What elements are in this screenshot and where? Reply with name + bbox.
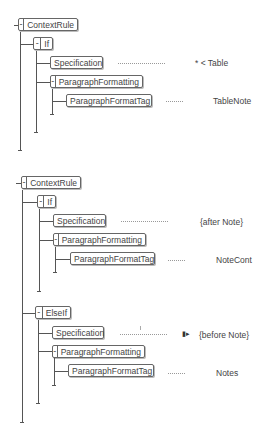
leader-dots — [120, 334, 167, 335]
connector — [52, 101, 66, 102]
collapse-toggle[interactable]: - — [34, 38, 41, 49]
node-label: If — [41, 39, 52, 49]
connector — [38, 333, 52, 334]
if-node[interactable]: - If — [37, 195, 56, 208]
connector — [54, 371, 68, 372]
connector-end — [53, 272, 57, 273]
specification-value[interactable]: {before Note} — [199, 330, 249, 340]
paragraph-format-tag-node[interactable]: ParagraphFormatTag — [70, 252, 155, 265]
specification-value[interactable]: * < Table — [195, 58, 228, 68]
context-rule-node[interactable]: - ContextRule — [21, 176, 81, 189]
node-label: ParagraphFormatTag — [69, 366, 155, 376]
node-label: If — [44, 197, 55, 207]
paragraph-formatting-node[interactable]: - ParagraphFormatting — [52, 345, 145, 358]
node-label: ContextRule — [24, 20, 77, 30]
leader-dots — [121, 221, 168, 222]
node-label: Specification — [54, 216, 108, 226]
connector — [36, 82, 50, 83]
node-label: ParagraphFormatTag — [67, 96, 153, 106]
connector — [20, 32, 21, 150]
connector — [55, 259, 70, 260]
context-rule-node[interactable]: - ContextRule — [18, 18, 78, 31]
node-label: ElseIf — [43, 308, 70, 318]
connector-end — [37, 291, 41, 292]
connector — [39, 240, 53, 241]
specification-value[interactable]: {after Note} — [200, 217, 243, 227]
paragraph-format-tag-node[interactable]: ParagraphFormatTag — [66, 94, 152, 107]
specification-node[interactable]: Specification — [50, 56, 103, 69]
connector — [20, 44, 33, 45]
if-node[interactable]: - If — [33, 37, 53, 50]
node-label: Specification — [53, 328, 107, 338]
connector — [22, 202, 37, 203]
tag-value[interactable]: TableNote — [213, 96, 251, 106]
pointer-tick — [140, 326, 141, 330]
connector — [22, 190, 23, 422]
paragraph-formatting-node[interactable]: - ParagraphFormatting — [50, 75, 143, 88]
specification-node[interactable]: Specification — [53, 214, 106, 227]
connector-end — [18, 150, 22, 151]
connector-end — [50, 114, 54, 115]
paragraph-format-tag-node[interactable]: ParagraphFormatTag — [68, 364, 154, 377]
tag-value[interactable]: NoteCont — [216, 255, 252, 265]
node-label: ParagraphFormatTag — [71, 254, 157, 264]
connector-end — [52, 385, 56, 386]
leader-dots — [166, 101, 183, 102]
elseif-node[interactable]: - ElseIf — [35, 306, 71, 319]
node-label: Specification — [51, 58, 105, 68]
leader-dots — [168, 260, 185, 261]
specification-node[interactable]: Specification — [52, 326, 104, 339]
node-label: ContextRule — [27, 178, 80, 188]
node-label: ParagraphFormatting — [59, 235, 145, 245]
node-label: ParagraphFormatting — [56, 77, 142, 87]
connector-end — [20, 422, 24, 423]
leader-dots — [168, 373, 185, 374]
connector — [22, 313, 35, 314]
collapse-toggle[interactable]: - — [36, 307, 43, 318]
tag-value[interactable]: Notes — [216, 368, 238, 378]
connector-end — [34, 132, 38, 133]
insertion-marker-icon: ▮▸ — [182, 330, 190, 338]
connector — [36, 63, 50, 64]
connector — [38, 351, 52, 352]
connector — [39, 221, 53, 222]
paragraph-formatting-node[interactable]: - ParagraphFormatting — [53, 233, 146, 246]
leader-dots — [118, 63, 165, 64]
connector-end — [36, 403, 40, 404]
node-label: ParagraphFormatting — [58, 347, 144, 357]
